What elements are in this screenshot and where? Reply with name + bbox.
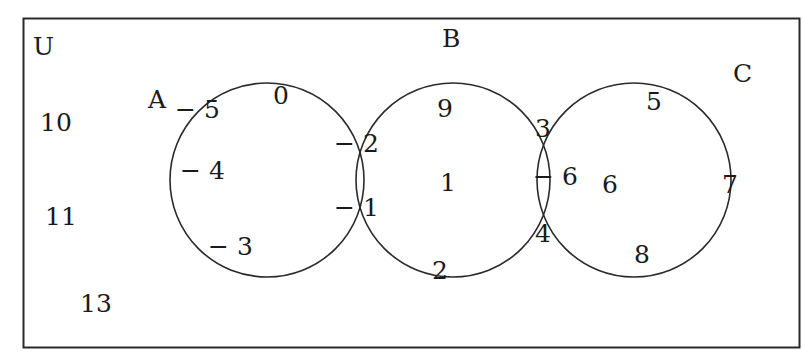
set-element: − 3 bbox=[208, 232, 253, 261]
set-element: 7 bbox=[722, 170, 738, 199]
set-element: 0 bbox=[273, 81, 289, 110]
universe-rectangle bbox=[24, 19, 800, 348]
set-element: 3 bbox=[535, 114, 551, 143]
set-element: − 4 bbox=[180, 156, 225, 185]
set-a-label: A bbox=[147, 85, 167, 114]
set-element: 9 bbox=[437, 94, 453, 123]
set-b-label: B bbox=[442, 24, 460, 53]
set-element: 5 bbox=[646, 87, 662, 116]
set-element: 1 bbox=[440, 168, 456, 197]
set-element: 10 bbox=[40, 108, 72, 137]
set-c-label: C bbox=[733, 59, 752, 88]
set-element: 6 bbox=[602, 170, 618, 199]
universe-label: U bbox=[33, 32, 54, 61]
set-element: 2 bbox=[432, 256, 448, 285]
venn-diagram: U ABC 101113− 50− 4− 3− 2− 19123− 646578 bbox=[0, 0, 803, 357]
set-element: 13 bbox=[80, 289, 112, 318]
set-element: − 5 bbox=[175, 95, 220, 124]
set-element: 11 bbox=[45, 202, 77, 231]
set-element: 4 bbox=[535, 219, 551, 248]
set-element: − 2 bbox=[334, 129, 379, 158]
set-element: 8 bbox=[634, 240, 650, 269]
set-element: − 1 bbox=[334, 193, 379, 222]
set-element: − 6 bbox=[533, 162, 578, 191]
